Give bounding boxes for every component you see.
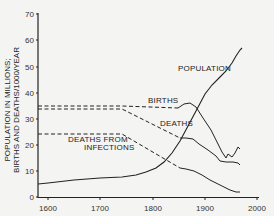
births-line (178, 103, 240, 158)
x-tick-1800: 1800 (144, 204, 162, 213)
population-label: POPULATION (178, 64, 231, 73)
births-label: BIRTHS (148, 96, 178, 105)
infections-line (180, 168, 240, 192)
y-tick-10: 10 (25, 167, 34, 176)
births-line-dashed (38, 106, 178, 108)
y-tick-20: 20 (25, 141, 34, 150)
x-tick-1900: 1900 (196, 204, 214, 213)
y-tick-50: 50 (25, 63, 34, 72)
infections-label-line2: INFECTIONS (84, 143, 134, 152)
x-tick-1700: 1700 (91, 204, 109, 213)
x-tick-1600: 1600 (39, 204, 57, 213)
y-axis-label: POPULATION IN MILLIONS; BIRTHS AND DEATH… (3, 47, 21, 173)
svg-text:POPULATION IN MILLIONS;: POPULATION IN MILLIONS; (3, 59, 12, 162)
y-tick-70: 70 (25, 10, 34, 19)
y-tick-30: 30 (25, 115, 34, 124)
x-tick-2000: 2000 (248, 204, 266, 213)
y-ticks: 0 10 20 30 40 50 60 70 (25, 10, 38, 202)
y-tick-60: 60 (25, 36, 34, 45)
deaths-label: DEATHS (160, 119, 193, 128)
chart: 0 10 20 30 40 50 60 70 1600 1700 1800 19… (0, 0, 274, 216)
svg-text:BIRTHS AND DEATHS/1000/YEAR: BIRTHS AND DEATHS/1000/YEAR (12, 47, 21, 173)
y-tick-0: 0 (30, 193, 35, 202)
x-ticks: 1600 1700 1800 1900 2000 (39, 197, 266, 213)
y-tick-40: 40 (25, 89, 34, 98)
deaths-line (180, 138, 240, 165)
